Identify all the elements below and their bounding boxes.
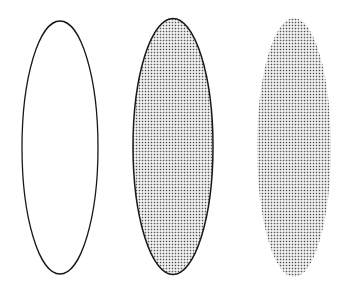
ellipse-diagram bbox=[0, 0, 347, 291]
ellipse-dotted-fill-only bbox=[257, 18, 331, 277]
ellipse-outline-with-dotted-fill bbox=[133, 19, 213, 275]
